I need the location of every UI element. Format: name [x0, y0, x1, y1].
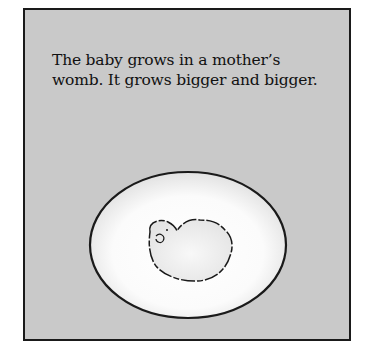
embryo-shape — [149, 219, 232, 281]
caption-line-1: The baby grows in a mother’s — [52, 50, 342, 70]
story-caption: The baby grows in a mother’s womb. It gr… — [52, 50, 342, 90]
caption-line-2: womb. It grows bigger and bigger. — [52, 70, 342, 90]
embryo-dot — [166, 229, 168, 231]
